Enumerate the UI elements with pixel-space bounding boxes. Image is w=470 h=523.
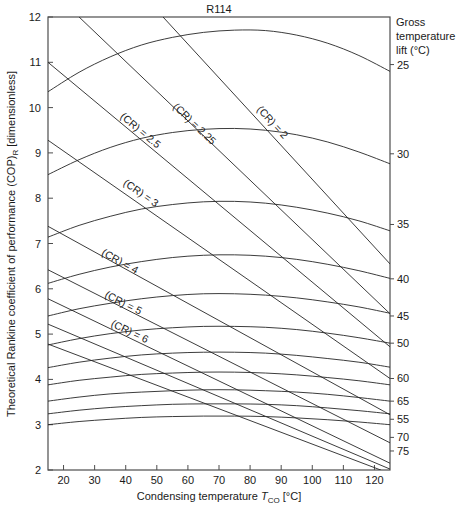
compression-ratio-line [48,62,390,346]
y-tick-label: 12 [29,11,41,23]
right-legend-line2: temperature [396,30,455,42]
chart-container: R114 23456789101112 20304050607080901001… [0,0,470,523]
y-axis-ticks: 23456789101112 [29,11,53,476]
x-tick-label: 40 [120,474,132,486]
lift-curve [48,201,390,237]
right-axis-label: 50 [397,337,409,349]
y-tick-label: 11 [30,56,41,68]
x-tick-label: 20 [57,474,69,486]
y-axis-title: Theoretical Rankine coefficient of perfo… [5,71,20,417]
x-axis-title-suffix: [°C] [280,490,302,502]
y-tick-label: 2 [35,464,41,476]
x-tick-label: 100 [303,474,321,486]
x-tick-label: 50 [151,474,163,486]
y-tick-label: 4 [35,373,41,385]
compression-ratio-line [48,299,390,463]
right-axis-label: 40 [397,273,409,285]
lift-curve [48,326,390,345]
lift-curves [48,30,390,425]
compression-ratio-line [48,140,390,378]
right-axis-label: 70 [397,431,409,443]
x-tick-label: 80 [244,474,256,486]
y-tick-label: 8 [35,192,41,204]
y-tick-label: 7 [35,238,41,250]
compression-ratio-lines [48,17,390,470]
x-tick-label: 60 [182,474,194,486]
chart-svg: R114 23456789101112 20304050607080901001… [0,0,470,523]
compression-ratio-label: (CR) = 2.25 [171,100,219,146]
compression-ratio-label: (CR) = 5 [103,288,144,317]
right-axis-label: 75 [397,445,409,457]
lift-curve [48,30,390,92]
chart-title: R114 [206,3,231,15]
x-tick-label: 110 [335,474,353,486]
right-legend-line1: Gross [396,16,426,28]
x-tick-label: 70 [213,474,225,486]
lift-curve [48,352,390,368]
lift-curve [48,390,390,401]
compression-ratio-label: (CR) = 3 [121,176,161,209]
x-tick-label: 120 [365,474,383,486]
right-axis-label: 65 [397,395,409,407]
y-axis-title-suffix: [dimensionless] [5,71,17,150]
lift-curve [48,372,390,385]
right-axis-label: 30 [397,148,409,160]
y-tick-label: 10 [29,102,41,114]
right-axis-label: 25 [397,59,409,71]
x-axis-title-prefix: Condensing temperature [137,490,261,502]
x-axis-title-subscript: CO [268,496,280,505]
y-axis-title-prefix: Theoretical Rankine coefficient of perfo… [5,156,17,417]
compression-ratio-label: (CR) = 2.5 [118,110,163,150]
y-tick-label: 5 [35,328,41,340]
lift-curve [48,294,390,316]
compression-ratio-label: (CR) = 2 [255,103,291,141]
right-axis-label: 45 [397,310,409,322]
y-tick-label: 9 [35,147,41,159]
compression-ratio-label: (CR) = 4 [100,246,141,276]
lift-curve [48,128,390,174]
y-tick-label: 3 [35,419,41,431]
x-tick-label: 30 [89,474,101,486]
compression-ratio-labels: (CR) = 2(CR) = 2.25(CR) = 2.5(CR) = 3(CR… [100,100,291,345]
compression-ratio-line [48,270,390,443]
y-tick-label: 6 [35,283,41,295]
compression-ratio-line [48,344,381,470]
right-axis-label: 60 [397,372,409,384]
x-tick-label: 90 [275,474,287,486]
right-axis-labels: 2530354045506065557075 [390,59,409,457]
compression-ratio-line [48,324,390,469]
x-axis-title: Condensing temperature TCO [°C] [137,490,301,505]
plot-frame [48,17,390,470]
right-axis-label: 35 [397,218,409,230]
right-legend-line3: lift (°C) [396,44,430,56]
right-axis-label: 55 [397,413,409,425]
x-axis-ticks: 2030405060708090100110120 [57,465,383,486]
